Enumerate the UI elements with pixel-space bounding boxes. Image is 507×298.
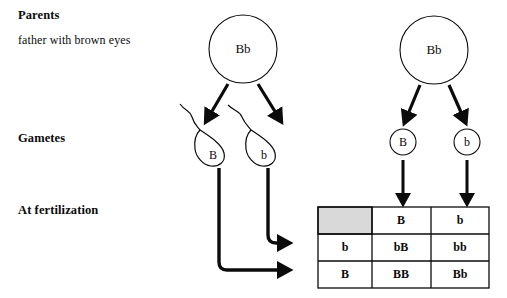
sperm-B-to-square-route <box>219 168 285 270</box>
egg-b-allele-label: b <box>464 135 470 149</box>
punnett-cell-0-0: bB <box>394 240 409 254</box>
father-to-sperm-B-arrow <box>208 84 228 118</box>
father-genotype-label: Bb <box>235 41 250 56</box>
sperm-b-to-square-route <box>268 168 285 243</box>
punnett-cell-1-1: Bb <box>453 267 468 281</box>
punnett-row-header-1: B <box>341 267 349 281</box>
mother-to-egg-b-arrow <box>449 85 464 119</box>
sperm-B-tail-icon <box>180 104 200 130</box>
punnett-cell-1-0: BB <box>393 267 409 281</box>
egg-B-allele-label: B <box>399 135 407 149</box>
punnett-corner-cell <box>318 207 372 234</box>
diagram-canvas: Bb B b Bb B <box>0 0 507 298</box>
punnett-square-table: B b b B bB bb BB Bb <box>318 207 489 288</box>
genetics-punnett-diagram: Parents father with brown eyes Gametes A… <box>0 0 507 298</box>
punnett-col-header-1: b <box>457 213 464 227</box>
sperm-B-allele-label: B <box>209 148 217 162</box>
father-parent-group: Bb <box>209 15 277 83</box>
egg-gamete-b: b <box>454 129 480 155</box>
sperm-gamete-B: B <box>180 104 224 166</box>
punnett-cell-0-1: bb <box>453 240 467 254</box>
egg-gamete-B: B <box>390 129 416 155</box>
sperm-b-allele-label: b <box>261 148 267 162</box>
mother-parent-group: Bb <box>400 16 468 84</box>
mother-to-egg-B-arrow <box>406 85 420 119</box>
mother-genotype-label: Bb <box>426 42 441 57</box>
punnett-col-header-0: B <box>397 213 405 227</box>
punnett-row-header-0: b <box>342 240 349 254</box>
sperm-b-tail-icon <box>228 105 251 130</box>
sperm-gamete-b: b <box>228 105 275 166</box>
father-to-sperm-b-arrow <box>258 84 279 118</box>
